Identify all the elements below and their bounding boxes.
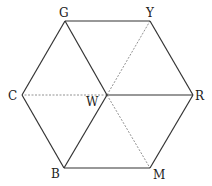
- vertex-label-Y: Y: [145, 6, 155, 20]
- color-hexagon-diagram: GYCRBMW: [0, 0, 212, 186]
- edge-Y-R: [150, 21, 193, 95]
- edge-W-Y: [107, 21, 150, 95]
- edge-W-M: [107, 95, 150, 168]
- edge-W-G: [65, 21, 107, 95]
- vertex-label-B: B: [51, 167, 60, 181]
- vertex-label-M: M: [153, 168, 165, 182]
- edge-R-M: [150, 95, 193, 168]
- vertex-label-W: W: [86, 95, 99, 109]
- vertex-label-R: R: [195, 89, 205, 103]
- edge-C-G: [22, 21, 65, 95]
- edge-B-C: [22, 95, 64, 168]
- vertex-label-G: G: [59, 6, 69, 20]
- vertex-label-C: C: [8, 89, 17, 103]
